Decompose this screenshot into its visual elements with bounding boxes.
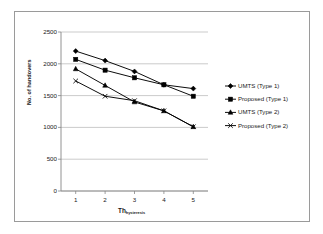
data-series-layer (73, 49, 196, 129)
figure-frame: No. of handovers 05001000150020002500 12… (14, 11, 310, 222)
gridlines (61, 32, 208, 191)
y-tick-label-2500: 2500 (29, 28, 57, 35)
data-point (103, 58, 108, 63)
chart-canvas (15, 12, 311, 223)
y-tick-label-0: 0 (29, 187, 57, 194)
data-point (132, 76, 136, 80)
x-axis-label-main: Th (118, 207, 126, 214)
x-axis-label: Thhysteresis (118, 207, 145, 214)
data-point (74, 57, 78, 61)
data-point (103, 68, 107, 72)
series-0 (73, 49, 196, 92)
x-axis-label-subscript: hysteresis (126, 210, 145, 215)
data-point (191, 94, 195, 98)
legend-label-0: UMTS (Type 1) (238, 82, 279, 89)
data-point (191, 86, 196, 91)
legend-label-1: Proposed (Type 1) (238, 95, 288, 102)
axis-lines (61, 32, 208, 191)
legend-marker-1 (228, 97, 232, 101)
y-tick-label-500: 500 (29, 155, 57, 162)
x-tick-label-2: 2 (95, 196, 115, 203)
data-point (162, 83, 166, 87)
legend-label-2: UMTS (Type 2) (238, 108, 279, 115)
data-point (73, 49, 78, 54)
x-tick-label-5: 5 (183, 196, 203, 203)
x-tick-label-4: 4 (154, 196, 174, 203)
data-point (73, 66, 78, 70)
legend-marker-layer (225, 84, 236, 128)
x-tick-label-1: 1 (66, 196, 86, 203)
data-point (73, 79, 78, 84)
data-point (132, 69, 137, 74)
x-tick-label-3: 3 (125, 196, 145, 203)
line-chart: No. of handovers 05001000150020002500 12… (15, 12, 311, 223)
y-tick-label-2000: 2000 (29, 60, 57, 67)
data-point (103, 83, 108, 87)
legend-label-3: Proposed (Type 2) (238, 122, 288, 129)
y-tick-label-1000: 1000 (29, 123, 57, 130)
legend-marker-0 (228, 84, 233, 89)
y-tick-label-1500: 1500 (29, 92, 57, 99)
